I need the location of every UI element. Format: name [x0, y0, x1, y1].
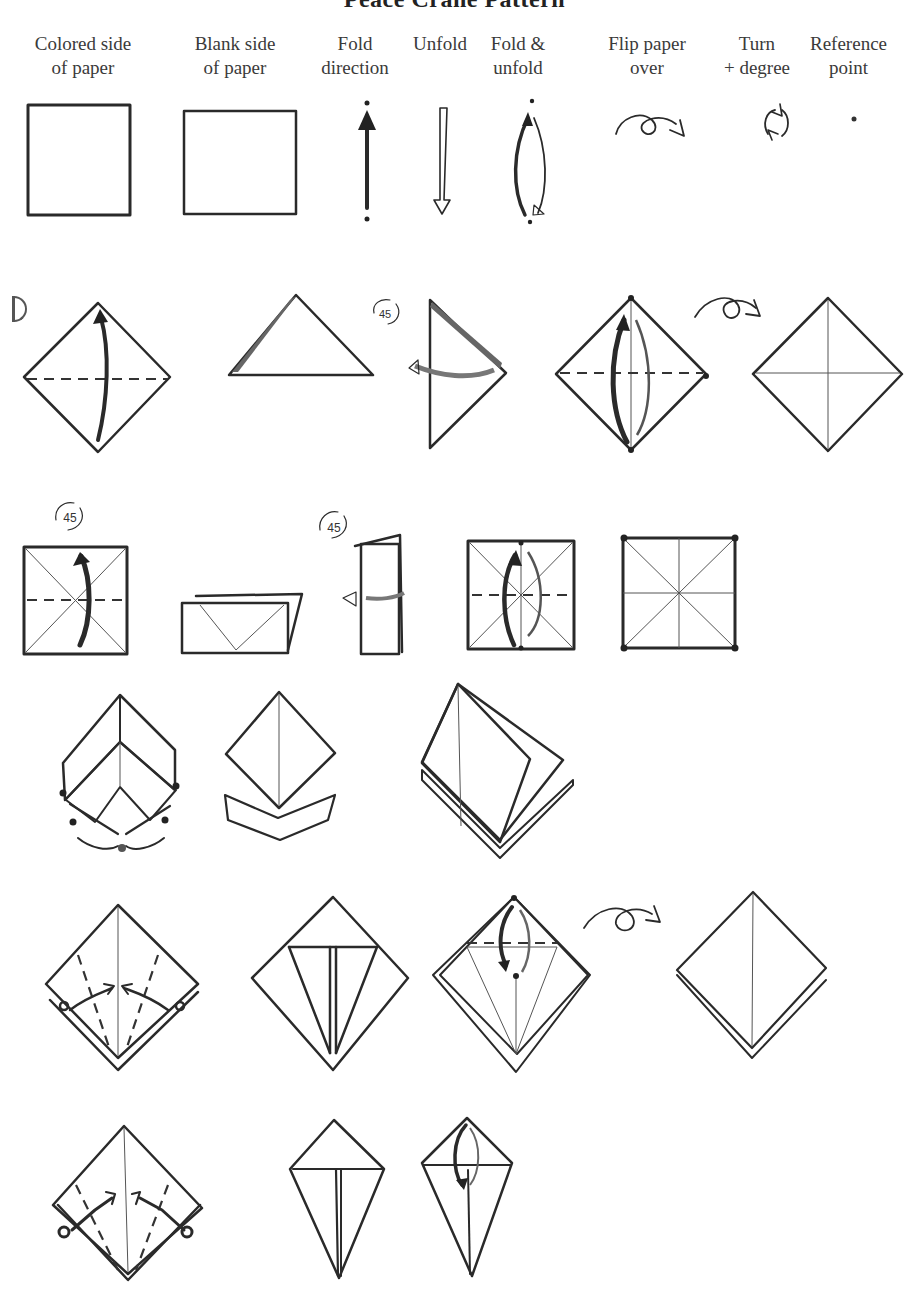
rotation-label: 45: [327, 521, 341, 535]
fold-unfold-icon: [516, 99, 545, 224]
blank-side-icon: [184, 111, 296, 214]
rotate-45-icon: 45: [320, 512, 347, 538]
step-3-triangle-rotated: [409, 300, 506, 448]
unfold-icon: [434, 108, 450, 214]
step-12-square-base-closing: [225, 692, 335, 840]
step-16-kite-fold-unfold-top: [433, 895, 590, 1072]
step-4-diamond-fold-unfold: [556, 295, 709, 453]
rotate-45-icon: 45: [374, 300, 399, 324]
step-17-diamond-flipped: [677, 892, 826, 1058]
fold-direction-icon: [358, 101, 376, 222]
turn-degree-icon: [765, 104, 788, 140]
step-6-square-fold: [24, 547, 127, 654]
step-11-collapse-square-base: [60, 695, 180, 852]
step-13-square-base: [422, 684, 573, 858]
reference-point-icon: [852, 117, 857, 122]
step-10-square-creased: [621, 535, 739, 652]
step-8-rectangle-vertical: [343, 535, 404, 654]
flip-over-arrow-icon: [695, 298, 760, 318]
step-9-square-fold-unfold: [468, 541, 574, 651]
step-1-diamond-colored: [24, 303, 170, 452]
flip-over-arrow-icon: [584, 906, 660, 930]
rotation-label: 45: [379, 308, 391, 320]
step-7-rectangle-folded: [182, 594, 302, 653]
rotation-label: 45: [63, 511, 77, 525]
flip-paper-icon: [616, 116, 684, 136]
step-20-kite-fold-unfold: [422, 1118, 512, 1276]
rotate-45-icon: 45: [56, 503, 83, 530]
diagram-canvas: 45 45: [0, 0, 909, 1294]
colored-side-icon: [28, 105, 130, 215]
step-14-kite-fold: [46, 905, 198, 1070]
step-19-kite-narrow: [290, 1120, 384, 1278]
step-18-kite-fold-back: [53, 1126, 202, 1280]
step-2-triangle: [229, 295, 373, 375]
step-15-kite-folded: [252, 897, 408, 1070]
step-5-diamond-creased: [753, 298, 902, 451]
